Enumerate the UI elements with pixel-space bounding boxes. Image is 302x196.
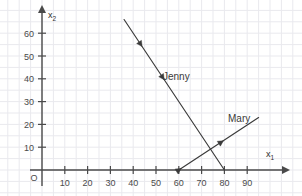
chart-background: [0, 0, 302, 196]
x-axis-title-sub: 1: [271, 154, 275, 161]
chart-canvas: 102030405060708090 102030405060 O x1 x2 …: [0, 0, 302, 196]
y-tick-label: 40: [24, 74, 34, 84]
x-tick-label: 50: [151, 178, 161, 188]
x-tick-label: 80: [219, 178, 229, 188]
origin-label: O: [30, 173, 37, 183]
x-tick-label: 70: [197, 178, 207, 188]
y-tick-label: 50: [24, 52, 34, 62]
y-tick-label: 30: [24, 97, 34, 107]
y-tick-label: 20: [24, 120, 34, 130]
x-tick-label: 60: [174, 178, 184, 188]
y-tick-label: 60: [24, 29, 34, 39]
x-tick-label: 30: [105, 178, 115, 188]
x-tick-label: 10: [60, 178, 70, 188]
y-tick-label: 10: [24, 143, 34, 153]
series-label-mary: Mary: [228, 113, 250, 124]
x-tick-label: 40: [128, 178, 138, 188]
line-chart-svg: 102030405060708090 102030405060 O x1 x2 …: [0, 0, 302, 196]
series-label-jenny: Jenny: [163, 71, 190, 82]
x-tick-label: 90: [242, 178, 252, 188]
x-tick-label: 20: [83, 178, 93, 188]
y-axis-title-sub: 2: [53, 15, 57, 22]
